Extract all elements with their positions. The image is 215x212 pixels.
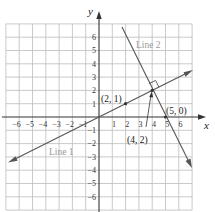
x-tick-labels: −6 −5 −4 −3 −2 −1 1 2 3 4 5 6: [12, 120, 182, 129]
svg-text:1: 1: [92, 100, 96, 109]
svg-text:2: 2: [125, 120, 129, 129]
label-point-5-0: (5, 0): [166, 106, 187, 117]
label-line-2: Line 2: [136, 40, 161, 50]
svg-text:3: 3: [139, 120, 143, 129]
svg-text:−3: −3: [52, 120, 61, 129]
svg-text:−2: −2: [65, 120, 74, 129]
svg-text:6: 6: [92, 33, 96, 42]
svg-text:4: 4: [92, 60, 96, 69]
svg-text:−4: −4: [39, 120, 48, 129]
point-4-2: [151, 89, 154, 92]
y-axis-label: y: [87, 5, 93, 17]
svg-text:1: 1: [112, 120, 116, 129]
line-1-arrow-right-icon: [184, 70, 193, 77]
y-axis-arrow-icon: [96, 11, 101, 19]
point-2-1: [124, 102, 127, 105]
svg-text:−6: −6: [12, 120, 21, 129]
svg-text:−4: −4: [87, 166, 96, 175]
svg-text:−5: −5: [26, 120, 35, 129]
label-point-2-1: (2, 1): [101, 94, 122, 105]
svg-text:−2: −2: [87, 139, 96, 148]
label-point-4-2: (4, 2): [127, 135, 148, 146]
coordinate-plane: x y −6 −5 −4 −3 −2 −1 1 2 3 4 5 6 6 5 4 …: [0, 0, 215, 212]
svg-text:5: 5: [92, 46, 96, 55]
svg-text:−1: −1: [87, 126, 96, 135]
svg-text:2: 2: [92, 86, 96, 95]
svg-text:6: 6: [179, 120, 183, 129]
svg-text:3: 3: [92, 73, 96, 82]
line-2-arrow-icon: [186, 159, 193, 169]
svg-text:4: 4: [152, 120, 156, 129]
svg-text:−5: −5: [87, 179, 96, 188]
x-axis-label: x: [203, 119, 209, 131]
pointer-line: [146, 95, 151, 127]
y-axis: [96, 11, 101, 212]
svg-text:−3: −3: [87, 153, 96, 162]
svg-text:−6: −6: [87, 193, 96, 202]
label-line-1: Line 1: [49, 147, 74, 157]
